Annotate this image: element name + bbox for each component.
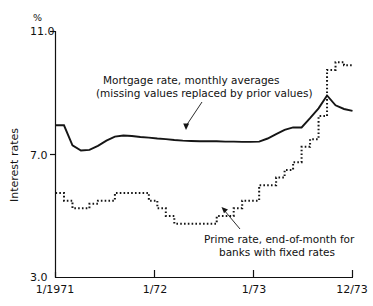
prime-annotation-line-1: Prime rate, end-of-month for <box>204 233 355 245</box>
prime-annotation: Prime rate, end-of-month for banks with … <box>204 207 355 258</box>
y-tick-label-7: 7.0 <box>30 149 48 162</box>
y-axis-unit-label: % <box>33 12 42 23</box>
prime-annotation-leader <box>224 210 240 229</box>
mortgage-annotation-line-1: Mortgage rate, monthly averages <box>103 74 280 86</box>
mortgage-annotation-line-2: (missing values replaced by prior values… <box>96 87 313 99</box>
x-tick-label-1-73: 1/73 <box>242 283 267 296</box>
chart-container: % 11.0 7.0 3.0 Interest rates 1/1971 1/7… <box>0 0 373 306</box>
x-tick-label-1-72: 1/72 <box>143 283 168 296</box>
x-tick-label-1-1971: 1/1971 <box>36 283 75 296</box>
mortgage-annotation-leader <box>186 102 202 126</box>
prime-annotation-arrowhead <box>222 207 229 213</box>
mortgage-annotation-arrowhead <box>183 123 189 130</box>
x-tick-label-12-73: 12/73 <box>336 283 368 296</box>
prime-annotation-line-2: banks with fixed rates <box>219 246 335 258</box>
interest-rates-line-chart: % 11.0 7.0 3.0 Interest rates 1/1971 1/7… <box>0 0 373 306</box>
series-mortgage-rate-line <box>56 95 353 150</box>
mortgage-annotation: Mortgage rate, monthly averages (missing… <box>96 74 313 130</box>
y-axis-title: Interest rates <box>8 128 21 202</box>
